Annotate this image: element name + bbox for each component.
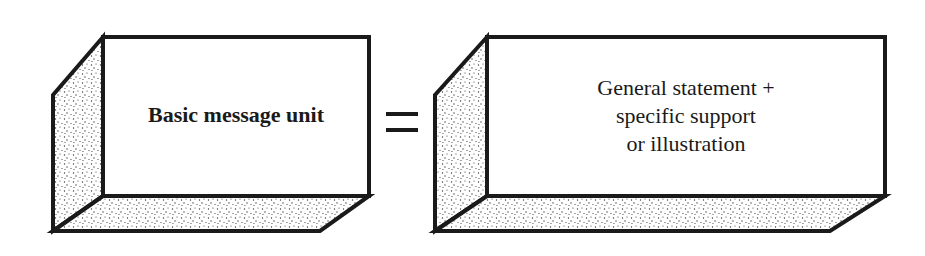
right-block: General statement + specific support or … xyxy=(435,37,885,231)
left-block-label: Basic message unit xyxy=(148,102,325,127)
equals-sign xyxy=(386,114,418,130)
left-block-bottom-face xyxy=(53,196,369,231)
diagram-canvas: Basic message unit General statement + s… xyxy=(0,0,925,256)
right-block-bottom-face xyxy=(435,196,885,231)
left-block: Basic message unit xyxy=(53,37,369,231)
right-block-line-1: General statement + xyxy=(597,75,774,100)
right-block-line-3: or illustration xyxy=(626,131,745,156)
right-block-line-2: specific support xyxy=(616,103,756,128)
